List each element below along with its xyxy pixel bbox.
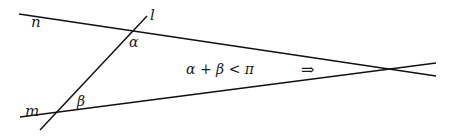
line-l-label: l — [150, 6, 155, 24]
condition-text: α + β < π — [186, 61, 255, 77]
line-n-label: n — [31, 13, 41, 31]
angle-alpha-label: α — [129, 34, 139, 50]
line-m-label: m — [25, 102, 39, 120]
parallel-postulate-diagram: n m l α β α + β < π ⇒ — [0, 0, 452, 136]
implies-arrow: ⇒ — [301, 60, 314, 79]
angle-beta-label: β — [76, 93, 85, 109]
